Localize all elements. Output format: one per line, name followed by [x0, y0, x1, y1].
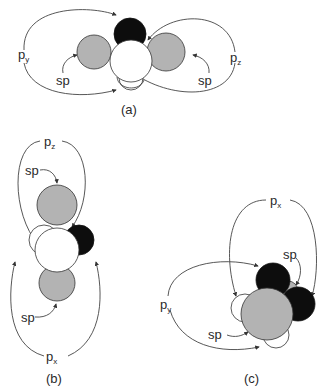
label-pz: pz: [230, 50, 241, 67]
label-py: py: [160, 297, 171, 314]
arc-sp-right: [193, 55, 209, 73]
label-sp-left: sp: [56, 73, 70, 88]
arc-sp-left: [63, 55, 77, 73]
label-sp-upper: sp: [283, 247, 297, 262]
lobe-gray-right: [147, 33, 185, 71]
panel-a: py sp pz sp (a): [18, 10, 241, 117]
label-px: px: [270, 193, 281, 210]
arc-sp-top: [40, 170, 57, 183]
orbital-diagram: py sp pz sp (a) pz sp sp px (b): [0, 0, 323, 390]
caption-b: (b): [46, 371, 62, 386]
label-sp-top: sp: [25, 163, 39, 178]
label-px: px: [46, 349, 57, 366]
lobe-gray-top: [37, 185, 77, 225]
caption-c: (c): [244, 371, 259, 386]
arc-sp-bottom: [35, 304, 56, 317]
lobe-white-center: [35, 228, 79, 272]
arc-py-bottom: [24, 63, 116, 95]
label-sp-right: sp: [198, 73, 212, 88]
arc-px-left: [11, 262, 44, 356]
panel-c: px sp py sp (c): [160, 193, 317, 386]
label-sp-bottom: sp: [21, 310, 35, 325]
label-sp-lower: sp: [208, 327, 222, 342]
lobe-white-center: [110, 40, 152, 82]
lobe-gray-big: [241, 288, 293, 340]
arc-py-top: [168, 262, 258, 296]
panel-b: pz sp sp px (b): [11, 134, 100, 386]
arc-sp-lower: [227, 332, 248, 336]
lobe-gray-left: [77, 35, 111, 69]
label-py: py: [18, 47, 29, 64]
caption-a: (a): [121, 102, 137, 117]
label-pz: pz: [44, 134, 55, 151]
arc-sp-upper: [296, 258, 301, 285]
